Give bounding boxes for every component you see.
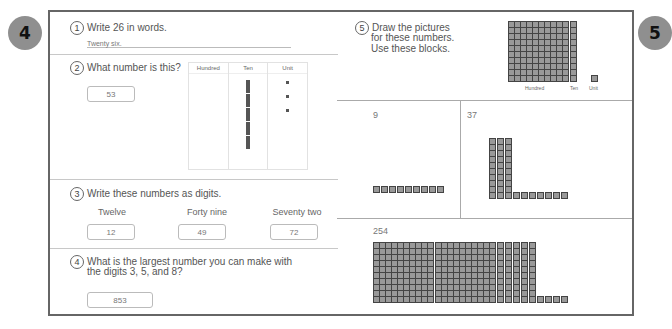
unit-column: Unit — [268, 63, 307, 169]
ten-rod-block — [505, 242, 512, 303]
ten-rod — [246, 94, 250, 107]
ten-rod-block — [529, 242, 536, 303]
unit-block — [405, 186, 412, 193]
unit-block — [537, 192, 544, 199]
unit-block-legend — [591, 75, 598, 82]
number-word: Twelve — [82, 207, 142, 217]
unit-block — [553, 296, 560, 303]
answer-box-seventy-two[interactable]: 72 — [270, 224, 318, 240]
divider — [50, 179, 338, 180]
divider — [337, 218, 632, 219]
ten-rod — [246, 136, 250, 149]
ten-rod — [246, 80, 250, 93]
ten-rod — [246, 122, 250, 135]
drawing-254 — [373, 242, 568, 303]
left-worksheet-panel: 1Write 26 in words. Twenty six. 2What nu… — [48, 10, 338, 316]
column-header: Unit — [268, 63, 307, 74]
number-word: Seventy two — [262, 207, 332, 217]
unit-block — [529, 192, 536, 199]
legend-label-ten: Ten — [570, 85, 578, 91]
question-3: 3Write these numbers as digits. — [70, 184, 221, 202]
column-header: Hundred — [189, 63, 228, 74]
cell-number-9: 9 — [373, 110, 378, 120]
ten-column: Ten — [229, 63, 269, 169]
question-number: 3 — [70, 187, 84, 201]
hundred-column: Hundred — [189, 63, 229, 169]
unit-block — [421, 186, 428, 193]
unit-block — [561, 296, 568, 303]
number-word: Forty nine — [172, 207, 242, 217]
question-number: 1 — [70, 21, 84, 35]
question-number: 4 — [70, 255, 84, 269]
unit-block — [537, 296, 544, 303]
unit-block — [553, 192, 560, 199]
answer-box-q2[interactable]: 53 — [87, 86, 135, 102]
page-number-right: 5 — [649, 23, 661, 43]
answer-text: 49 — [198, 228, 207, 237]
ten-rod-block — [497, 242, 504, 303]
answer-box-q4[interactable]: 853 — [87, 292, 153, 308]
answer-text: 53 — [107, 90, 116, 99]
answer-box-forty-nine[interactable]: 49 — [178, 224, 226, 240]
question-text: Write 26 in words. — [87, 22, 167, 33]
unit-block — [373, 186, 380, 193]
ten-block-legend — [570, 21, 577, 82]
right-worksheet-panel: 5Draw the pictures for these numbers. Us… — [337, 10, 634, 316]
unit-block — [513, 192, 520, 199]
page-number-badge-left: 4 — [8, 16, 42, 50]
cell-number-254: 254 — [373, 226, 388, 236]
unit-block — [521, 192, 528, 199]
unit-block — [437, 186, 444, 193]
answer-text: 853 — [113, 296, 126, 305]
page-number-left: 4 — [19, 23, 31, 43]
unit-block — [413, 186, 420, 193]
ten-rod — [246, 108, 250, 121]
unit-block — [545, 296, 552, 303]
unit-block — [545, 192, 552, 199]
divider — [337, 100, 632, 101]
question-text-line2: for these numbers. — [371, 32, 454, 43]
ten-rod-block — [489, 138, 496, 199]
ten-rod-block — [513, 242, 520, 303]
question-text-line2: the digits 3, 5, and 8? — [87, 266, 183, 277]
divider — [50, 54, 338, 55]
ten-rod-block — [505, 138, 512, 199]
page-number-badge-right: 5 — [638, 16, 672, 50]
unit-block — [381, 186, 388, 193]
question-number: 2 — [70, 61, 84, 75]
unit-block — [429, 186, 436, 193]
answer-text: 72 — [290, 228, 299, 237]
answer-line-q1[interactable]: Twenty six. — [87, 40, 291, 48]
answer-text: 12 — [107, 228, 116, 237]
divider — [50, 248, 338, 249]
cell-number-37: 37 — [467, 110, 477, 120]
ten-rod-block — [521, 242, 528, 303]
hundred-block — [373, 242, 434, 303]
unit-dot — [286, 95, 289, 98]
ten-rod-block — [497, 138, 504, 199]
place-value-chart: Hundred Ten Unit — [188, 62, 308, 170]
question-text: What number is this? — [87, 62, 181, 73]
question-number: 5 — [355, 21, 369, 35]
unit-dot — [286, 109, 289, 112]
unit-dot — [286, 81, 289, 84]
legend-label-hundred: Hundred — [525, 85, 544, 91]
column-header: Ten — [229, 63, 268, 74]
answer-text: Twenty six. — [87, 40, 122, 47]
legend-label-unit: Unit — [589, 85, 598, 91]
hundred-block-legend — [508, 21, 569, 82]
unit-block — [397, 186, 404, 193]
question-2: 2What number is this? — [70, 58, 181, 76]
question-text: Write these numbers as digits. — [87, 188, 221, 199]
hundred-block — [435, 242, 496, 303]
vertical-divider — [460, 100, 461, 218]
drawing-9 — [373, 186, 444, 193]
question-1: 1Write 26 in words. — [70, 18, 167, 36]
drawing-37 — [489, 138, 568, 199]
unit-block — [389, 186, 396, 193]
unit-block — [561, 192, 568, 199]
answer-box-twelve[interactable]: 12 — [87, 224, 135, 240]
question-text-line3: Use these blocks. — [371, 43, 450, 54]
